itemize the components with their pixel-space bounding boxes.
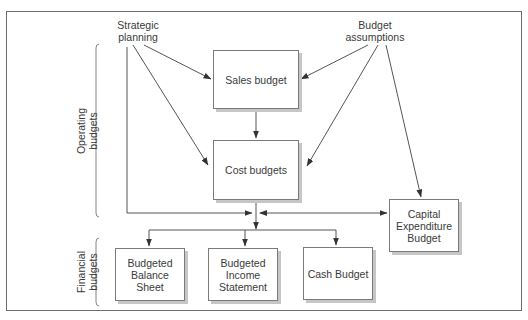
cost-budgets-box: Cost budgets [213,140,299,200]
strategic-planning-label: Strategic planning [103,19,173,43]
financial-line1: Financial [75,237,87,307]
operating-budgets-label: Operating budgets [75,96,99,166]
operating-line1: Operating [75,96,87,166]
strategic-planning-line1: Strategic [103,19,173,31]
edge-assumptions-to-cost [307,45,378,166]
edge-assumptions-to-capex [386,45,421,197]
budget-assumptions-line1: Budget [335,19,415,31]
capex-line2: Expenditure [396,220,452,232]
edge-strategic-to-sales [144,45,211,79]
financial-budgets-label: Financial budgets [75,237,99,307]
budget-assumptions-line2: assumptions [335,31,415,43]
capital-expenditure-budget-box: Capital Expenditure Budget [389,199,459,252]
income-statement-line2: Income [219,269,267,281]
balance-sheet-line1: Budgeted [128,257,173,269]
financial-line2: budgets [87,237,99,307]
edge-strategic-to-cost [133,45,208,165]
cost-budgets-label: Cost budgets [225,164,287,176]
sales-budget-label: Sales budget [225,74,286,86]
income-statement-line3: Statement [219,281,267,293]
cash-budget-box: Cash Budget [303,247,373,300]
capex-line1: Capital [396,208,452,220]
balance-sheet-line3: Sheet [128,281,173,293]
cash-budget-label: Cash Budget [308,268,369,280]
income-statement-line1: Budgeted [219,257,267,269]
edge-assumptions-to-sales [301,45,368,79]
strategic-planning-line2: planning [103,31,173,43]
balance-sheet-line2: Balance [128,269,173,281]
arrowhead-left [259,210,267,216]
capex-line3: Budget [396,232,452,244]
budget-assumptions-label: Budget assumptions [335,19,415,43]
operating-line2: budgets [87,96,99,166]
budgeted-income-statement-box: Budgeted Income Statement [208,248,278,301]
budgeted-balance-sheet-box: Budgeted Balance Sheet [115,248,185,301]
sales-budget-box: Sales budget [213,50,299,109]
